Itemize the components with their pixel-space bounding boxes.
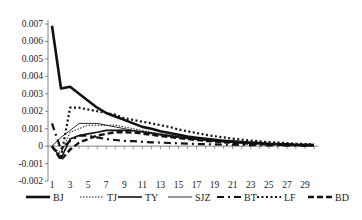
legend-item-ty: TY bbox=[118, 192, 158, 203]
y-tick-label: 0.004 bbox=[22, 71, 44, 81]
y-axis: 0.0070.0060.0050.0040.0030.0020.0010-0.0… bbox=[18, 19, 48, 186]
legend-label: LF bbox=[284, 192, 296, 203]
y-tick-label: 0.007 bbox=[22, 19, 44, 29]
y-tick-label: -0.002 bbox=[18, 176, 43, 186]
y-tick-label: -0.001 bbox=[18, 159, 43, 169]
y-tick-label: 0.003 bbox=[22, 89, 44, 99]
series-line-lf bbox=[52, 108, 314, 157]
legend-item-bt: BT bbox=[217, 192, 257, 203]
series-group bbox=[52, 26, 314, 160]
y-tick-label: 0.001 bbox=[22, 124, 44, 134]
legend: BJTJTYSJZBTLFBD bbox=[0, 187, 362, 213]
legend-label: BT bbox=[244, 192, 257, 203]
legend-label: TJ bbox=[107, 192, 117, 203]
legend-item-bj: BJ bbox=[26, 192, 64, 203]
legend-label: BJ bbox=[53, 192, 64, 203]
legend-item-sjz: SJZ bbox=[168, 192, 211, 203]
legend-label: TY bbox=[145, 192, 158, 203]
y-tick-label: 0.006 bbox=[22, 36, 44, 46]
legend-item-lf: LF bbox=[257, 192, 296, 203]
y-tick-label: 0.005 bbox=[22, 54, 44, 64]
legend-item-tj: TJ bbox=[80, 192, 117, 203]
y-tick-label: 0.002 bbox=[22, 106, 44, 116]
legend-item-bd: BD bbox=[308, 192, 349, 203]
legend-label: BD bbox=[335, 192, 349, 203]
legend-label: SJZ bbox=[195, 192, 211, 203]
y-tick-label: 0 bbox=[38, 141, 43, 151]
x-axis: 1357911131517192123252729 bbox=[48, 146, 318, 190]
line-chart: 0.0070.0060.0050.0040.0030.0020.0010-0.0… bbox=[0, 0, 362, 190]
series-line-bj bbox=[52, 26, 314, 145]
